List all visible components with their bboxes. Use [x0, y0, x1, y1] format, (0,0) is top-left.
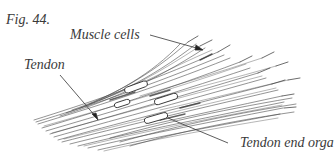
figure-44-illustration: Fig. 44. Muscle cells Tendon Tendon end … [0, 0, 335, 168]
tendon-label: Tendon [24, 58, 65, 72]
leader-lines [60, 35, 228, 143]
muscle-cells-leader-line [150, 35, 200, 49]
tendon-leader-line [60, 75, 96, 117]
arrow-icon [92, 113, 98, 120]
tendon-end-organ-label: Tendon end orga [240, 136, 334, 150]
fiber-bundle [34, 36, 300, 151]
figure-number-label: Fig. 44. [6, 13, 50, 27]
muscle-cells-label: Muscle cells [70, 28, 140, 42]
tendon-end-organ-leader-line [168, 118, 228, 143]
arrow-icon [195, 45, 203, 50]
